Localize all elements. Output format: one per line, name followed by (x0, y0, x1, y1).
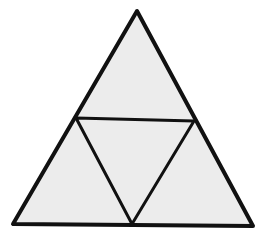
diagram-canvas (0, 0, 270, 239)
subdivided-triangle-diagram (0, 0, 270, 239)
